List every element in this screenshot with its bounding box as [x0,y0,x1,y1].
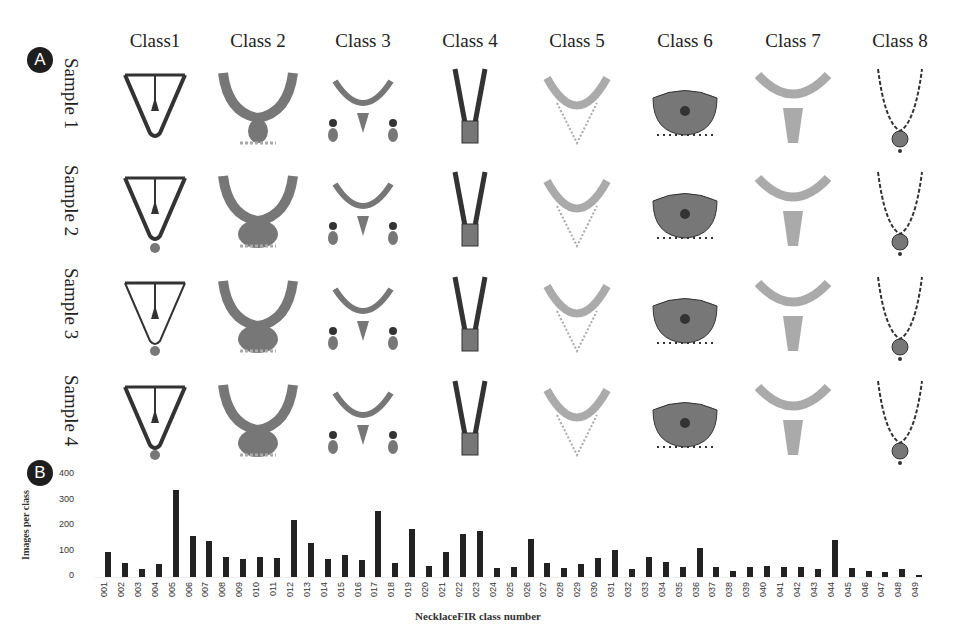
sample-label-3: Sample 3 [60,268,82,339]
bar-class-001 [105,552,111,578]
panel-a-badge: A [27,47,53,73]
bar-class-014 [325,559,331,577]
necklace-image-class7-sample4 [738,372,848,467]
necklace-image-class3-sample2 [308,163,418,258]
x-tick-label: 001 [99,582,117,610]
x-tick-label: 003 [133,582,151,610]
necklace-image-class8-sample1 [845,60,955,155]
class-header-3: Class 3 [308,30,418,52]
x-tick-label: 037 [707,582,725,610]
x-tick-label: 035 [674,582,692,610]
x-tick-label: 041 [775,582,793,610]
x-tick-label: 026 [522,582,540,610]
bar-class-038 [730,571,736,577]
x-tick-label: 004 [150,582,168,610]
x-tick-label: 011 [268,582,286,610]
bar-class-023 [477,531,483,577]
bar-class-019 [409,529,415,577]
x-tick-label: 013 [302,582,320,610]
class-header-2: Class 2 [203,30,313,52]
bar-class-010 [257,557,263,577]
x-tick-label: 018 [386,582,404,610]
bar-class-004 [156,564,162,577]
bar-class-020 [426,566,432,577]
necklace-image-class1-sample2 [100,163,210,258]
necklace-image-class6-sample1 [630,60,740,155]
bar-class-035 [680,567,686,577]
bar-class-036 [697,548,703,577]
x-tick-label: 002 [116,582,134,610]
bar-class-016 [359,560,365,577]
x-tick-label: 034 [657,582,675,610]
necklace-image-class2-sample3 [203,268,313,363]
bar-class-003 [139,569,145,577]
necklace-image-class7-sample2 [738,163,848,258]
class-header-5: Class 5 [522,30,632,52]
necklace-image-class7-sample3 [738,268,848,363]
x-tick-label: 030 [589,582,607,610]
bar-class-047 [882,572,888,577]
bar-class-032 [629,569,635,577]
necklace-image-class3-sample1 [308,60,418,155]
bar-class-029 [578,564,584,577]
x-tick-label: 029 [572,582,590,610]
bar-class-037 [713,567,719,577]
bar-class-045 [849,568,855,577]
necklace-image-class2-sample4 [203,372,313,467]
bar-class-002 [122,563,128,577]
class-header-1: Class1 [100,30,210,52]
y-tick-label: 100 [44,545,74,555]
sample-label-2: Sample 2 [60,165,82,236]
x-tick-label: 036 [691,582,709,610]
sample-label-4: Sample 4 [60,375,82,446]
x-tick-label: 009 [234,582,252,610]
y-tick-label: 300 [44,494,74,504]
x-tick-label: 022 [454,582,472,610]
necklace-image-class5-sample3 [522,268,632,363]
x-tick-label: 019 [403,582,421,610]
bar-class-012 [291,520,297,577]
chart-y-axis-label: Images per class [20,470,36,580]
necklace-image-class3-sample4 [308,372,418,467]
bar-class-013 [308,543,314,577]
x-tick-label: 038 [724,582,742,610]
x-tick-label: 046 [860,582,878,610]
x-tick-label: 024 [488,582,506,610]
x-tick-label: 005 [167,582,185,610]
necklace-image-class4-sample1 [415,60,525,155]
bar-class-031 [612,550,618,577]
bar-class-021 [443,552,449,578]
necklace-image-class8-sample4 [845,372,955,467]
x-tick-label: 020 [420,582,438,610]
x-tick-label: 048 [893,582,911,610]
necklace-image-class2-sample2 [203,163,313,258]
necklace-image-class1-sample3 [100,268,210,363]
x-tick-label: 043 [809,582,827,610]
bar-class-018 [392,563,398,577]
bar-class-008 [223,557,229,577]
class-header-6: Class 6 [630,30,740,52]
bar-chart-plot-area [95,470,925,578]
necklace-image-class1-sample1 [100,60,210,155]
necklace-image-class6-sample2 [630,163,740,258]
necklace-image-class4-sample2 [415,163,525,258]
bar-class-040 [764,566,770,577]
bar-class-030 [595,558,601,577]
bar-class-006 [190,536,196,577]
bar-class-022 [460,534,466,577]
x-tick-label: 027 [538,582,556,610]
bar-class-028 [561,568,567,577]
x-tick-label: 044 [826,582,844,610]
x-tick-label: 012 [285,582,303,610]
bar-class-049 [916,575,922,577]
class-header-8: Class 8 [845,30,955,52]
x-tick-label: 021 [437,582,455,610]
y-tick-label: 200 [44,519,74,529]
necklace-image-class3-sample3 [308,268,418,363]
x-tick-label: 016 [353,582,371,610]
x-tick-label: 040 [758,582,776,610]
chart-x-axis-label: NecklaceFIR class number [0,610,956,622]
x-tick-label: 047 [876,582,894,610]
x-tick-label: 023 [471,582,489,610]
bar-class-005 [173,490,179,577]
